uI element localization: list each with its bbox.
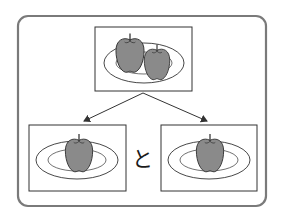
bottom-right-panel xyxy=(161,125,257,191)
top-panel xyxy=(95,27,192,91)
diagram-canvas xyxy=(0,0,285,220)
bottom-left-panel xyxy=(29,125,126,191)
conjunction-label: と xyxy=(131,146,153,172)
